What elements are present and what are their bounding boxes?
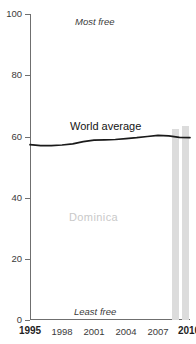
world-average-line-layer — [0, 0, 196, 344]
world-average-line — [30, 135, 190, 145]
x-tick-label-2010: 2010 — [169, 326, 196, 336]
series-label-world-average: World average — [70, 120, 141, 132]
economic-freedom-chart: Economic Freedom 100 80 60 40 20 0 Most … — [0, 0, 196, 344]
